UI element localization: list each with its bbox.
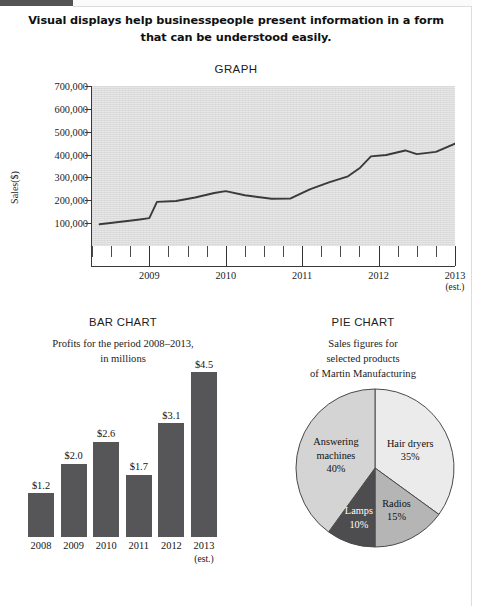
line-chart-y-axis-label: Sales($) [9,148,20,228]
line-chart-x-tickmark-major [226,246,227,266]
bar-chart-title: BAR CHART [8,316,238,328]
bar-chart-bar-group: $2.6 [93,372,119,537]
pie-chart-slice-label-line: Answering [291,435,381,448]
bar-chart-bar-group: $4.5 [191,372,217,537]
line-chart-y-tick-label: 600,000 [26,103,88,114]
bar-chart-bar [28,493,54,537]
line-chart-y-tick-label: 100,000 [26,218,88,229]
bar-chart-value-label: $1.7 [116,461,162,472]
pie-chart-slice-label-line: 40% [291,462,381,475]
line-chart-x-tickmark-minor [207,246,208,257]
pie-chart-subtitle-line3: of Martin Manufacturing [310,368,416,379]
line-chart-x-tickmark-major [379,246,380,266]
pie-chart-subtitle-line1: Sales figures for [328,338,397,349]
pie-chart-slice-label: Lamps10% [314,504,404,531]
line-chart-x-tickmark-minor [188,246,189,257]
pie-chart-subtitle-line2: selected products [326,353,399,364]
bar-chart-subtitle-line2: in millions [100,353,146,364]
line-chart-x-tickmark-minor [436,246,437,257]
bar-chart-bar-group: $3.1 [158,372,184,537]
line-chart-y-tick-label: 500,000 [26,126,88,137]
bar-chart-category-label: 2013(est.) [180,540,228,564]
line-chart-x-tickmark-minor [359,246,360,257]
page-top-bleed-bar [0,0,73,6]
line-chart-x-tick-label: 2009 [119,270,179,281]
bar-chart-value-label: $4.5 [181,359,227,370]
line-chart-x-tick-label: 2011 [272,270,332,281]
line-chart-x-tickmark-minor [168,246,169,257]
line-chart-x-tickmark-minor [283,246,284,257]
bar-chart-value-label: $3.1 [148,410,194,421]
line-chart-x-tickmark-minor [398,246,399,257]
textbook-figure-page: Visual displays help businesspeople pres… [0,0,487,613]
page-headline: Visual displays help businesspeople pres… [18,12,454,46]
line-chart-x-tickmark-major [455,246,456,266]
line-chart-y-tickmark [85,132,92,133]
pie-chart-slice-label-line: Lamps [314,504,404,517]
line-chart-y-tick-label: 200,000 [26,195,88,206]
line-chart-x-tickmark-minor [340,246,341,257]
line-chart-x-tick-label: 2010 [196,270,256,281]
line-chart-y-tickmark [85,86,92,87]
line-chart-x-tickmark-minor [264,246,265,257]
line-chart-y-tickmark [85,177,92,178]
bar-chart-value-label: $2.0 [51,450,97,461]
line-chart-x-tickmark-minor [130,246,131,257]
line-chart-y-tickmark [85,155,92,156]
pie-chart-title: PIE CHART [268,316,458,328]
line-chart-y-tickmark [85,223,92,224]
pie-chart-slice-label: Answeringmachines40% [291,435,381,475]
line-chart-y-tickmark [85,200,92,201]
bar-chart-bar-group: $2.0 [61,372,87,537]
line-chart-x-tickmark-minor [111,246,112,257]
line-chart: Sales($) 700,000600,000500,000400,000300… [0,86,472,296]
line-chart-x-tickmark-minor [417,246,418,257]
pie-chart-subtitle: Sales figures for selected products of M… [258,336,468,381]
bar-chart-value-label: $2.6 [83,428,129,439]
line-chart-x-tickmark-minor [321,246,322,257]
line-chart-y-tickmark [85,109,92,110]
bar-chart-value-label: $1.2 [18,480,64,491]
pie-chart-slice-label-line: machines [291,449,381,462]
line-chart-x-axis-line [91,266,455,267]
bar-chart-bar [93,442,119,537]
line-chart-x-tick-label: 2012 [349,270,409,281]
line-chart-y-tick-label: 400,000 [26,149,88,160]
bar-chart-plot-area: $1.2$2.0$2.6$1.7$3.1$4.5 [28,372,218,537]
pie-chart: Hair dryers35%Radios15%Lamps10%Answering… [293,386,457,550]
bar-chart-subtitle-line1: Profits for the period 2008–2013, [52,338,194,349]
line-chart-title: GRAPH [0,63,472,75]
line-chart-x-tickmark-minor [92,246,93,257]
line-chart-x-tickmark-minor [245,246,246,257]
bar-chart-bar [126,475,152,537]
line-chart-y-tick-label: 700,000 [26,81,88,92]
line-chart-series-path [92,86,455,246]
bar-chart-bar [158,423,184,537]
line-chart-x-tickmark-major [302,246,303,266]
line-chart-y-ticks: 700,000600,000500,000400,000300,000200,0… [26,86,88,246]
line-chart-y-tick-label: 300,000 [26,172,88,183]
bar-chart-bar [61,464,87,537]
bar-chart-bar-group: $1.7 [126,372,152,537]
pie-chart-slice-label-line: 10% [314,518,404,531]
line-chart-x-tickmark-major [149,246,150,266]
line-chart-x-tick-label: 2013(est.) [425,270,485,292]
bar-chart-bar [191,372,217,537]
page-frame-top-rule [73,6,472,7]
bar-chart-category-note: (est.) [180,553,228,564]
line-chart-x-tick-note: (est.) [425,282,485,292]
